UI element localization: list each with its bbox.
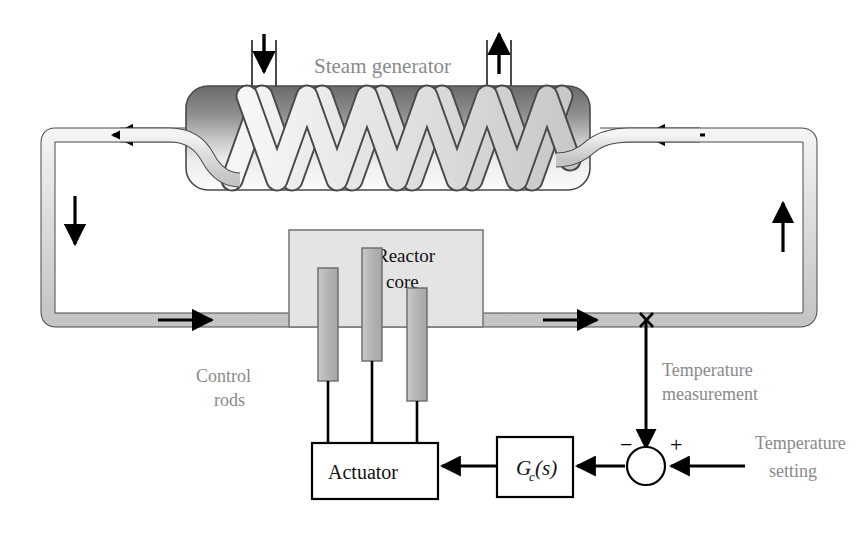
summing-junction-positive-sign: + — [670, 432, 682, 457]
reactor-control-diagram: Steam generator Reactor core Control rod… — [0, 0, 858, 540]
temperature-setting-label-line2: setting — [769, 461, 817, 481]
temperature-setting-label-line1: Temperature — [755, 433, 846, 453]
summing-junction-negative-sign: − — [620, 432, 632, 457]
summing-junction-circle — [627, 447, 665, 485]
actuator-label: Actuator — [328, 461, 398, 483]
temperature-measurement-label-line2: measurement — [662, 384, 758, 404]
controller-block: G c (s) — [497, 437, 573, 497]
control-rods-label-line1: Control — [196, 366, 251, 386]
temperature-measurement-label-line1: Temperature — [662, 360, 753, 380]
control-rods-label-line2: rods — [214, 390, 245, 410]
controller-label-argument: (s) — [535, 456, 557, 480]
reactor-core-label-line1: Reactor — [376, 245, 436, 266]
control-rod-3 — [407, 288, 427, 401]
control-rod-2 — [362, 248, 382, 361]
control-rod-1 — [318, 268, 338, 381]
actuator-block: Actuator — [312, 443, 438, 499]
steam-generator-label: Steam generator — [314, 54, 451, 78]
diagram-canvas: Steam generator Reactor core Control rod… — [0, 0, 858, 540]
